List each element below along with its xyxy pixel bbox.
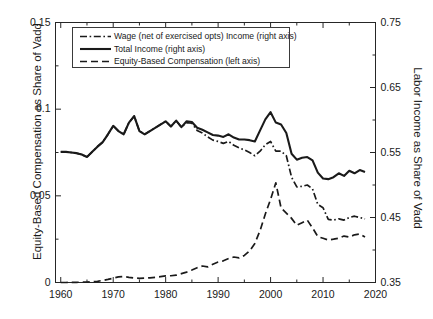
- y-tick-label-right: 0.65: [381, 81, 430, 93]
- x-tick-label: 2020: [351, 288, 401, 300]
- series-line-3: [61, 183, 365, 283]
- y-tick-label-left: 0: [2, 276, 51, 288]
- legend-label-2: Total Income (right axis): [114, 44, 205, 54]
- y-tick-label-right: 0.75: [381, 16, 430, 28]
- chart-figure: Equity-Based Compensation as Share of Va…: [0, 0, 433, 319]
- y-axis-label-left: Equity-Based Compensation as Share of Va…: [31, 30, 43, 260]
- y-tick-label-right: 0.55: [381, 146, 430, 158]
- chart-legend: Wage (net of exercised opts) Income (rig…: [72, 27, 290, 68]
- x-tick-label: 1970: [88, 288, 138, 300]
- y-tick-label-right: 0.35: [381, 276, 430, 288]
- x-tick-label: 2000: [246, 288, 296, 300]
- x-tick-label: 1960: [36, 288, 86, 300]
- y-tick-label-left: 0.05: [2, 189, 51, 201]
- legend-label-1: Wage (net of exercised opts) Income (rig…: [114, 31, 297, 41]
- x-tick-label: 2010: [298, 288, 348, 300]
- x-tick-label: 1990: [193, 288, 243, 300]
- series-line-2: [61, 116, 365, 220]
- y-tick-label-left: 0.1: [2, 102, 51, 114]
- y-tick-label-right: 0.45: [381, 211, 430, 223]
- y-tick-label-left: 0.15: [2, 16, 51, 28]
- legend-label-3: Equity-Based Compensation (left axis): [114, 56, 260, 66]
- series-line-1: [61, 112, 365, 179]
- x-tick-label: 1980: [141, 288, 191, 300]
